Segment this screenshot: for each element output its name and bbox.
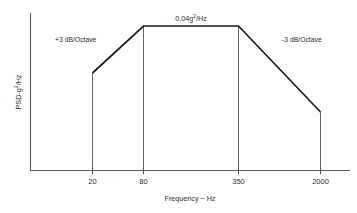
xtick-label-80: 80 xyxy=(139,177,147,186)
plateau-label-base: 0.04g xyxy=(175,14,193,23)
psd-profile-chart: 20 80 350 2000 Frequency ~ Hz PSD-g2/Hz … xyxy=(0,0,357,213)
y-axis-title: PSD-g2/Hz xyxy=(13,74,23,109)
plateau-level-annotation: 0.04g2/Hz xyxy=(175,13,207,23)
xtick-label-350: 350 xyxy=(232,177,245,186)
chart-canvas: 20 80 350 2000 Frequency ~ Hz PSD-g2/Hz … xyxy=(0,0,357,213)
falling-slope-annotation: -3 dB/Octave xyxy=(282,36,322,43)
xtick-label-20: 20 xyxy=(88,177,96,186)
y-axis-title-tail: /Hz xyxy=(14,74,23,85)
xtick-label-2000: 2000 xyxy=(312,177,329,186)
y-axis-title-base: PSD-g xyxy=(14,88,23,109)
x-axis-title: Frequency ~ Hz xyxy=(165,194,216,203)
plateau-label-tail: /Hz xyxy=(196,14,207,23)
y-axis-title-group: PSD-g2/Hz xyxy=(13,74,23,109)
rising-slope-annotation: +3 dB/Octave xyxy=(55,36,97,43)
